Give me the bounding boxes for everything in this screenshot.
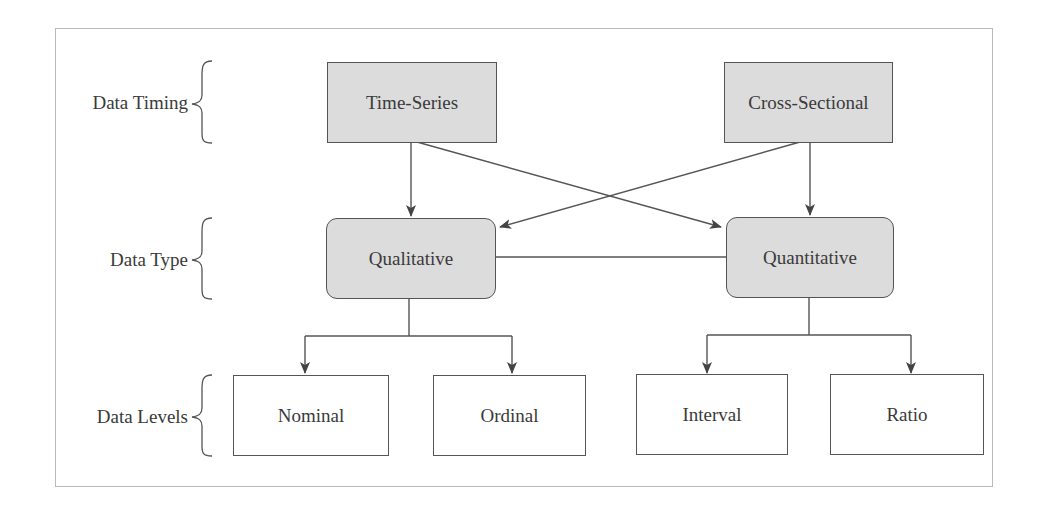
node-label: Quantitative: [763, 247, 857, 269]
brace-timing-icon: [192, 61, 212, 143]
node-time-series: Time-Series: [327, 62, 497, 143]
row-label-timing: Data Timing: [8, 92, 188, 114]
row-label-levels: Data Levels: [8, 406, 188, 428]
brace-levels-icon: [192, 375, 212, 456]
node-nominal: Nominal: [233, 375, 389, 456]
node-label: Nominal: [278, 405, 345, 427]
node-label: Ordinal: [480, 405, 538, 427]
edge-timeseries-quantitative: [417, 142, 721, 227]
node-label: Ratio: [886, 404, 927, 426]
node-cross-sectional: Cross-Sectional: [724, 62, 893, 143]
edge-crosssectional-qualitative: [500, 142, 800, 227]
node-label: Cross-Sectional: [748, 92, 868, 114]
row-label-type: Data Type: [8, 249, 188, 271]
node-quantitative: Quantitative: [726, 217, 894, 298]
node-label: Interval: [682, 404, 741, 426]
node-ratio: Ratio: [830, 374, 984, 455]
node-label: Time-Series: [366, 92, 458, 114]
node-ordinal: Ordinal: [433, 375, 586, 456]
node-interval: Interval: [636, 374, 788, 455]
brace-type-icon: [192, 218, 212, 299]
node-qualitative: Qualitative: [326, 218, 496, 299]
node-label: Qualitative: [369, 248, 453, 270]
